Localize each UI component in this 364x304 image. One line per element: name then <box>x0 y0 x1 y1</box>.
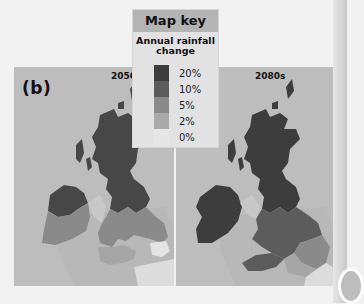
map-key: Map key Annual rainfall change 20% 10% 5… <box>133 10 218 147</box>
swatch-0 <box>154 129 169 145</box>
key-item-10: 10% <box>154 81 201 97</box>
page-edge-tab <box>338 268 364 304</box>
key-label: 2% <box>179 116 195 127</box>
period-label-2080s: 2080s <box>255 71 285 81</box>
key-item-0: 0% <box>154 129 201 145</box>
key-label: 0% <box>179 132 195 143</box>
swatch-2 <box>154 113 169 129</box>
key-item-20: 20% <box>154 65 201 81</box>
map-key-title: Map key <box>133 10 218 32</box>
map-key-subtitle: Annual rainfall change <box>133 36 218 56</box>
panel-letter: (b) <box>22 78 51 98</box>
key-label: 5% <box>179 100 195 111</box>
swatch-5 <box>154 97 169 113</box>
swatch-20 <box>154 65 169 81</box>
page-edge-strip <box>333 0 347 303</box>
swatch-10 <box>154 81 169 97</box>
map-key-list: 20% 10% 5% 2% 0% <box>154 65 201 145</box>
key-item-5: 5% <box>154 97 201 113</box>
key-label: 10% <box>179 84 201 95</box>
key-label: 20% <box>179 68 201 79</box>
key-item-2: 2% <box>154 113 201 129</box>
